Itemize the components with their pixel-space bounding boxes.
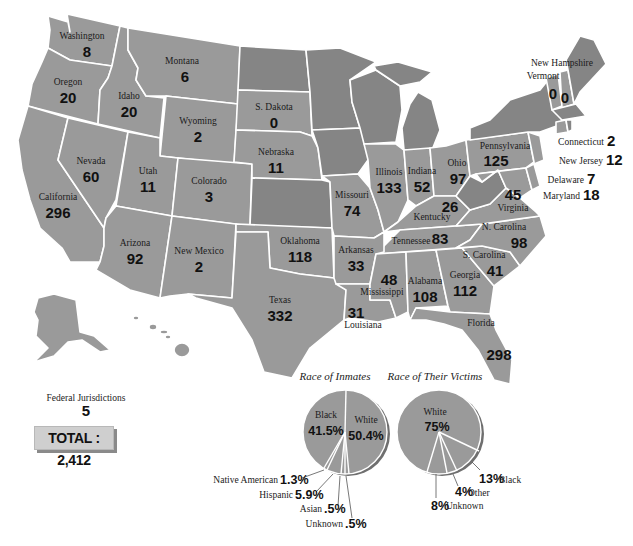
label-maryland: Maryland18 <box>543 186 600 203</box>
svg-text:California: California <box>39 192 78 202</box>
slice-victims-white: White 75% <box>423 407 449 434</box>
svg-text:60: 60 <box>83 168 100 185</box>
svg-text:Tennessee: Tennessee <box>392 236 431 246</box>
svg-text:.5%: .5% <box>345 517 367 531</box>
svg-text:Delaware: Delaware <box>548 175 584 185</box>
svg-text:.5%: .5% <box>324 502 346 516</box>
state-indiana[interactable] <box>404 148 434 206</box>
svg-text:Unknown: Unknown <box>306 519 344 529</box>
label-connecticut: Connecticut2 <box>558 132 615 149</box>
label-utah: Utah11 <box>139 166 158 195</box>
svg-text:Idaho: Idaho <box>118 91 140 101</box>
svg-text:Nevada: Nevada <box>76 156 106 166</box>
svg-text:N. Carolina: N. Carolina <box>482 222 527 232</box>
svg-text:S. Carolina: S. Carolina <box>463 250 507 260</box>
svg-text:Mississippi: Mississippi <box>360 287 404 297</box>
svg-text:0: 0 <box>561 89 569 106</box>
slice-asian: Asian .5% <box>300 502 346 516</box>
svg-text:0: 0 <box>549 85 557 102</box>
svg-text:133: 133 <box>376 179 401 196</box>
svg-text:2: 2 <box>607 132 615 149</box>
slice-native-american: Native American 1.3% <box>213 473 308 487</box>
state-north-dakota[interactable] <box>238 46 310 92</box>
svg-text:92: 92 <box>127 250 144 267</box>
label-illinois: Illinois133 <box>376 167 403 196</box>
svg-text:Hispanic: Hispanic <box>259 490 293 500</box>
svg-text:12: 12 <box>606 151 623 168</box>
svg-text:118: 118 <box>288 248 312 265</box>
state-alaska[interactable] <box>34 294 110 362</box>
state-rhode-island[interactable] <box>566 120 572 132</box>
svg-text:18: 18 <box>583 186 600 203</box>
slice-victims-black: 13% Black <box>479 472 521 486</box>
svg-text:Ohio: Ohio <box>448 158 467 168</box>
svg-text:Maryland: Maryland <box>543 191 580 201</box>
svg-text:41.5%: 41.5% <box>308 424 343 438</box>
svg-text:7: 7 <box>587 170 595 187</box>
state-new-mexico[interactable] <box>160 216 236 298</box>
svg-text:Washington: Washington <box>59 31 104 41</box>
svg-text:Vermont: Vermont <box>527 71 560 81</box>
slice-victims-unknown: 8% Unknown <box>431 499 484 513</box>
svg-text:Other: Other <box>468 488 490 498</box>
state-michigan[interactable] <box>402 92 440 150</box>
svg-text:45: 45 <box>505 186 522 203</box>
svg-text:Arkansas: Arkansas <box>338 245 374 255</box>
pie-race-of-victims: Race of Their Victims White 75% 13% Blac… <box>387 370 522 513</box>
svg-text:Montana: Montana <box>165 56 200 66</box>
svg-text:Florida: Florida <box>467 318 495 328</box>
state-montana[interactable] <box>128 28 240 104</box>
svg-text:Arizona: Arizona <box>120 238 151 248</box>
svg-text:1.3%: 1.3% <box>280 473 309 487</box>
federal-jurisdictions: Federal Jurisdictions 5 <box>36 393 136 419</box>
label-delaware: Delaware7 <box>548 170 596 187</box>
svg-text:33: 33 <box>348 257 365 274</box>
slice-hispanic: Hispanic 5.9% <box>259 488 323 502</box>
svg-text:52: 52 <box>414 178 431 195</box>
svg-text:Oklahoma: Oklahoma <box>280 236 320 246</box>
svg-text:Missouri: Missouri <box>335 190 369 200</box>
svg-text:Race of Their Victims: Race of Their Victims <box>387 370 483 382</box>
svg-text:Wyoming: Wyoming <box>179 116 217 126</box>
svg-text:Kentucky: Kentucky <box>414 212 451 222</box>
svg-text:Black: Black <box>499 475 521 485</box>
svg-text:Virginia: Virginia <box>498 203 530 213</box>
svg-text:Georgia: Georgia <box>450 270 481 280</box>
label-georgia: Georgia112 <box>450 270 481 299</box>
svg-text:Alabama: Alabama <box>408 276 443 286</box>
svg-text:296: 296 <box>45 204 70 221</box>
slice-victims-other: 4% Other <box>455 485 490 499</box>
svg-text:5.9%: 5.9% <box>295 488 324 502</box>
svg-text:97: 97 <box>450 170 467 187</box>
pie-race-of-inmates: Race of Inmates Black 41.5% White 50.4% … <box>213 370 390 531</box>
svg-text:S. Dakota: S. Dakota <box>255 102 293 112</box>
svg-text:Colorado: Colorado <box>191 176 227 186</box>
svg-text:0: 0 <box>270 114 278 131</box>
federal-value: 5 <box>36 403 136 419</box>
svg-text:Unknown: Unknown <box>446 501 484 511</box>
label-idaho: Idaho20 <box>118 91 140 120</box>
state-maine[interactable] <box>566 36 606 104</box>
svg-text:20: 20 <box>121 103 138 120</box>
svg-text:50.4%: 50.4% <box>348 429 383 443</box>
svg-text:New Jersey: New Jersey <box>559 156 603 166</box>
svg-text:11: 11 <box>268 159 284 176</box>
label-texas: Texas332 <box>267 295 292 324</box>
svg-text:Indiana: Indiana <box>408 166 437 176</box>
svg-text:Asian: Asian <box>300 504 322 514</box>
slice-unknown: Unknown .5% <box>306 517 367 531</box>
svg-text:Illinois: Illinois <box>376 167 403 177</box>
svg-text:New Hampshire: New Hampshire <box>531 58 593 68</box>
state-kansas[interactable] <box>250 178 332 228</box>
svg-text:98: 98 <box>511 234 528 251</box>
svg-text:White: White <box>354 415 377 425</box>
svg-text:75%: 75% <box>424 420 449 434</box>
us-map-chart: Washington8 Oregon20 California296 Idaho… <box>0 0 633 546</box>
label-new-jersey: New Jersey12 <box>559 151 623 168</box>
svg-text:31: 31 <box>348 304 365 321</box>
svg-text:20: 20 <box>60 89 77 106</box>
svg-text:332: 332 <box>267 307 292 324</box>
svg-text:83: 83 <box>432 230 449 247</box>
svg-text:Utah: Utah <box>139 166 158 176</box>
state-hawaii[interactable] <box>133 316 190 357</box>
